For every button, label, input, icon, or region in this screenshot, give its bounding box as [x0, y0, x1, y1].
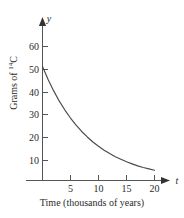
x-tick-label: 10: [94, 183, 104, 194]
y-tick-label: 10: [29, 155, 39, 166]
y-axis-arrow-icon: [39, 17, 46, 26]
y-tick-label: 50: [29, 64, 39, 75]
x-tick-label: 5: [68, 183, 73, 194]
y-tick-label: 30: [29, 109, 39, 120]
x-axis-title: Time (thousands of years): [0, 198, 184, 208]
y-axis-title: Grams of 14C: [9, 31, 19, 135]
x-tick-labels: 5 10 15 20: [68, 183, 160, 194]
decay-curve: [43, 67, 155, 171]
x-axis-variable-label: t: [176, 175, 179, 186]
carbon-14-decay-figure: 60 50 40 30 20 10 5 10 15 20 y t Grams o…: [0, 0, 184, 218]
x-tick-label: 15: [122, 183, 132, 194]
y-tick-labels: 60 50 40 30 20 10: [29, 41, 39, 166]
y-axis-title-base: Grams of: [8, 70, 19, 110]
x-tick-marks: [71, 175, 155, 181]
x-tick-label: 20: [150, 183, 160, 194]
y-axis-title-element: C: [8, 56, 19, 63]
y-tick-marks: [43, 46, 49, 160]
y-tick-label: 40: [29, 87, 39, 98]
plot-area: 60 50 40 30 20 10 5 10 15 20 y t: [0, 0, 184, 218]
y-axis-variable-label: y: [46, 13, 52, 24]
y-tick-label: 20: [29, 132, 39, 143]
y-tick-label: 60: [29, 41, 39, 52]
y-axis-title-superscript: 14: [7, 63, 15, 70]
x-axis-arrow-icon: [161, 177, 170, 184]
